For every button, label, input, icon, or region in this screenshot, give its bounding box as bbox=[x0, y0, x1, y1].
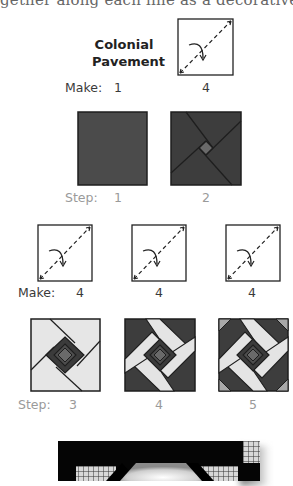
make-count: 4 bbox=[196, 81, 216, 95]
quilt-block-step-5 bbox=[218, 318, 289, 392]
make-count: 1 bbox=[108, 81, 128, 95]
step-number: 5 bbox=[243, 398, 263, 412]
make-label-row2: Make: bbox=[18, 286, 55, 300]
step-number: 3 bbox=[63, 398, 83, 412]
quilt-photo bbox=[58, 441, 260, 481]
fold-diagonal-icon bbox=[37, 224, 94, 284]
step-label-row1: Step: bbox=[65, 191, 98, 205]
make-count: 4 bbox=[149, 286, 169, 300]
clipped-body-text: gether along each line as a decorative a… bbox=[0, 0, 293, 11]
quilt-block-step-2 bbox=[170, 111, 242, 186]
block-title-line-2: Pavement bbox=[92, 53, 156, 70]
step-number: 4 bbox=[149, 398, 169, 412]
quilt-block-step-4 bbox=[124, 318, 196, 392]
quilt-block-step-1 bbox=[77, 111, 148, 186]
fold-diagonal-icon bbox=[131, 224, 188, 284]
step-number: 1 bbox=[108, 191, 128, 205]
quilt-block-step-3 bbox=[30, 318, 101, 392]
step-number: 2 bbox=[196, 191, 216, 205]
step-label-row2: Step: bbox=[18, 398, 51, 412]
make-label-row1: Make: bbox=[65, 81, 102, 95]
make-count: 4 bbox=[70, 286, 90, 300]
make-count: 4 bbox=[242, 286, 262, 300]
block-title-line-1: Colonial bbox=[92, 36, 156, 53]
fold-diagonal-icon bbox=[225, 224, 282, 284]
fold-diagonal-icon bbox=[177, 18, 235, 78]
block-title: Colonial Pavement bbox=[92, 36, 156, 70]
